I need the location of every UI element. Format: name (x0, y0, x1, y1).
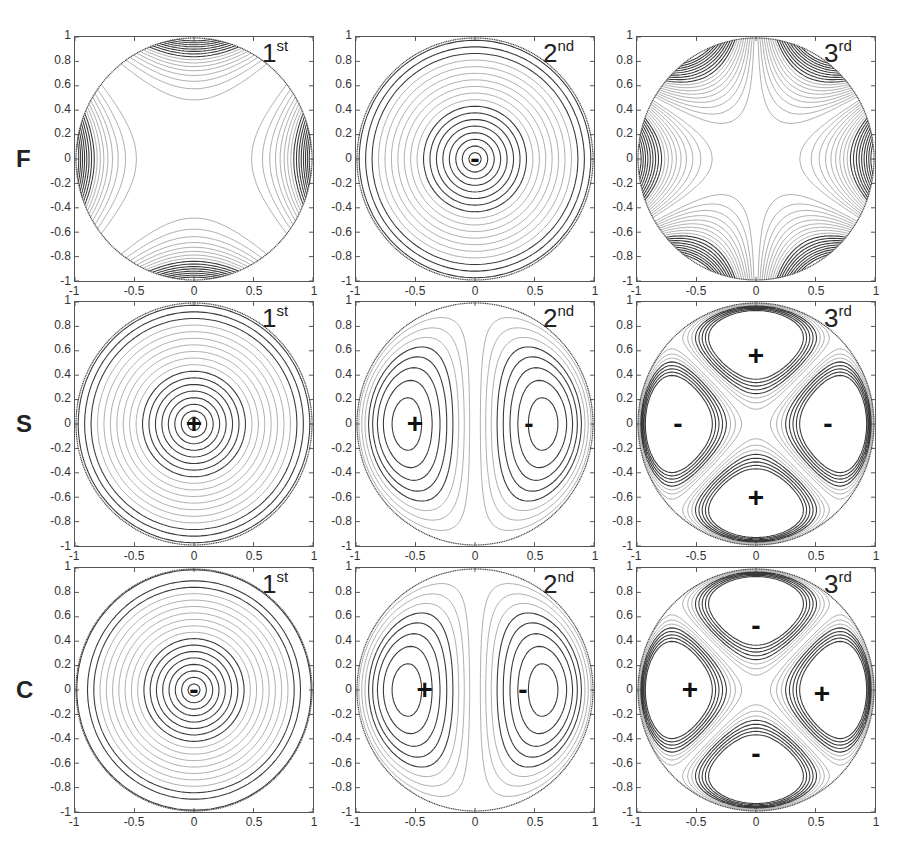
y-tick-label: 0.6 (318, 608, 352, 622)
y-tick-label: 0.8 (37, 53, 71, 67)
y-tick-label: 0.6 (37, 77, 71, 91)
y-tick-label: -0.8 (599, 514, 633, 528)
y-tick-label: 0.8 (599, 584, 633, 598)
y-tick-label: -0.2 (318, 441, 352, 455)
x-tick-label: 0.5 (799, 549, 833, 563)
y-tick-label: 0.8 (318, 53, 352, 67)
y-tick-label: -0.4 (37, 731, 71, 745)
y-tick-label: -0.4 (37, 200, 71, 214)
y-tick-label: -0.6 (318, 225, 352, 239)
y-tick-label: -0.4 (599, 200, 633, 214)
y-tick-label: -0.4 (318, 465, 352, 479)
unit-disk-boundary (638, 38, 874, 280)
order-label: 2nd (543, 305, 574, 331)
x-tick-label: 0.5 (237, 284, 271, 298)
x-tick-label: 0 (739, 549, 773, 563)
y-tick-label: 0.8 (318, 318, 352, 332)
y-tick-label: -0.2 (599, 176, 633, 190)
y-tick-label: -0.2 (599, 707, 633, 721)
order-label: 1st (262, 305, 288, 331)
y-tick-label: -0.8 (599, 780, 633, 794)
y-tick-label: -0.6 (318, 490, 352, 504)
y-tick-label: 0.4 (37, 633, 71, 647)
y-tick-label: -0.6 (599, 225, 633, 239)
y-tick-label: 1 (318, 559, 352, 573)
x-tick-label: 0 (177, 549, 211, 563)
y-tick-label: -0.6 (37, 756, 71, 770)
x-tick-label: -0.5 (398, 815, 432, 829)
y-tick-label: 0.2 (318, 657, 352, 671)
y-tick-label: 0.2 (37, 657, 71, 671)
y-tick-label: 0.4 (318, 102, 352, 116)
x-tick-label: -0.5 (679, 549, 713, 563)
y-tick-label: 0.2 (318, 126, 352, 140)
x-tick-label: 0.5 (518, 284, 552, 298)
y-tick-label: 0.2 (37, 391, 71, 405)
y-tick-label: -0.4 (37, 465, 71, 479)
minus-sign-marker: - (673, 410, 682, 438)
minus-sign-marker: - (518, 676, 527, 704)
plus-sign-marker: + (748, 484, 764, 512)
y-tick-label: 0.6 (599, 342, 633, 356)
x-tick-label: 0.5 (237, 815, 271, 829)
y-tick-label: -0.2 (318, 707, 352, 721)
minus-sign-marker: - (751, 612, 760, 640)
contour-axes (636, 567, 876, 813)
y-tick-label: 0.6 (318, 77, 352, 91)
x-tick-label: -0.5 (679, 815, 713, 829)
x-tick-label: 0 (458, 549, 492, 563)
row-label-s: S (16, 410, 32, 438)
minus-sign-marker: - (189, 676, 198, 704)
y-tick-label: 0.2 (37, 126, 71, 140)
y-tick-label: 0.8 (599, 318, 633, 332)
plus-sign-marker: + (748, 342, 764, 370)
y-tick-label: 1 (599, 293, 633, 307)
y-tick-label: -0.6 (599, 756, 633, 770)
minus-sign-marker: - (524, 410, 533, 438)
y-tick-label: 1 (37, 293, 71, 307)
y-tick-label: -0.8 (318, 780, 352, 794)
x-tick-label: -0.5 (398, 549, 432, 563)
y-tick-label: 0.6 (37, 342, 71, 356)
y-tick-label: 1 (37, 28, 71, 42)
order-label: 3rd (824, 305, 852, 331)
x-tick-label: 1 (859, 284, 893, 298)
y-tick-label: 0.4 (37, 102, 71, 116)
y-tick-label: -0.8 (37, 249, 71, 263)
order-label: 3rd (824, 571, 852, 597)
y-tick-label: -0.4 (318, 200, 352, 214)
y-tick-label: 1 (318, 293, 352, 307)
y-tick-label: 0.6 (599, 608, 633, 622)
minus-sign-marker: - (470, 145, 479, 173)
x-tick-label: 0.5 (518, 549, 552, 563)
y-tick-label: -0.2 (37, 176, 71, 190)
y-tick-label: 0 (318, 151, 352, 165)
y-tick-label: 0 (37, 151, 71, 165)
y-tick-label: 0 (37, 682, 71, 696)
y-tick-label: -0.8 (599, 249, 633, 263)
plus-sign-marker: + (186, 410, 202, 438)
y-tick-label: 0.4 (599, 633, 633, 647)
y-tick-label: 0 (37, 416, 71, 430)
y-tick-label: -0.6 (318, 756, 352, 770)
y-tick-label: 0.2 (318, 391, 352, 405)
y-tick-label: -0.4 (318, 731, 352, 745)
y-tick-label: 0 (599, 416, 633, 430)
plus-sign-marker: + (682, 676, 698, 704)
y-tick-label: 0.2 (599, 126, 633, 140)
x-tick-label: -0.5 (679, 284, 713, 298)
x-tick-label: 0 (177, 284, 211, 298)
y-tick-label: 0.4 (599, 102, 633, 116)
y-tick-label: 0.8 (318, 584, 352, 598)
x-tick-label: 0.5 (799, 815, 833, 829)
x-tick-label: -1 (619, 815, 653, 829)
x-tick-label: 0.5 (518, 815, 552, 829)
y-tick-label: -0.6 (599, 490, 633, 504)
y-tick-label: -0.8 (37, 780, 71, 794)
plus-sign-marker: + (407, 410, 423, 438)
x-tick-label: -1 (57, 815, 91, 829)
y-tick-label: 0 (599, 682, 633, 696)
y-tick-label: 0.4 (318, 633, 352, 647)
x-tick-label: 0.5 (799, 284, 833, 298)
x-tick-label: 0 (458, 815, 492, 829)
